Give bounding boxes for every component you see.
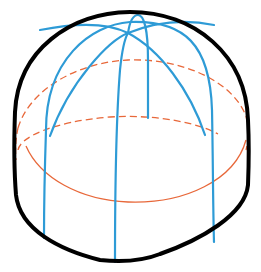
dome-diagram (0, 0, 261, 272)
dome-wireframe-svg (0, 0, 261, 272)
